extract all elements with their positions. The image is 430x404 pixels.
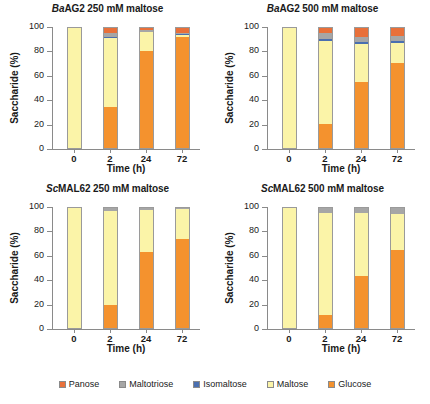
y-axis-label: Saccharide (%) bbox=[9, 232, 20, 304]
x-tick-label: 24 bbox=[346, 153, 376, 164]
bar-segment-maltose[interactable] bbox=[355, 213, 368, 277]
y-tick-label: 40 bbox=[34, 94, 44, 105]
y-tick-mark bbox=[47, 329, 52, 330]
bar-segment-glucose[interactable] bbox=[104, 305, 117, 328]
bar-segment-maltose[interactable] bbox=[140, 210, 153, 252]
stacked-bar[interactable] bbox=[139, 27, 154, 149]
legend-item[interactable]: Isomaltose bbox=[193, 379, 247, 389]
stacked-bar[interactable] bbox=[282, 207, 297, 329]
bar-segment-glucose[interactable] bbox=[391, 250, 404, 328]
bar-segment-glucose[interactable] bbox=[355, 276, 368, 328]
stacked-bar[interactable] bbox=[67, 27, 82, 149]
bar-segment-glucose[interactable] bbox=[391, 63, 404, 148]
plot-canvas bbox=[267, 207, 407, 329]
y-tick-label: 40 bbox=[249, 274, 259, 285]
bar-segment-maltose[interactable] bbox=[283, 28, 296, 148]
plot-area: 020406080100Saccharide (%)Time (h)022472 bbox=[215, 180, 430, 360]
bar-segment-panose[interactable] bbox=[355, 28, 368, 37]
y-tick-label: 100 bbox=[29, 21, 44, 32]
x-tick-label: 0 bbox=[274, 153, 304, 164]
x-tick-label: 2 bbox=[310, 333, 340, 344]
bar-segment-glucose[interactable] bbox=[176, 239, 189, 328]
y-tick-label: 0 bbox=[254, 323, 259, 334]
bar-segment-maltose[interactable] bbox=[140, 32, 153, 51]
y-tick-label: 100 bbox=[244, 201, 259, 212]
plot-area: 020406080100Saccharide (%)Time (h)022472 bbox=[215, 0, 430, 180]
legend-label: Panose bbox=[69, 379, 100, 389]
y-tick-label: 80 bbox=[249, 225, 259, 236]
bar-segment-glucose[interactable] bbox=[140, 51, 153, 148]
y-tick-label: 60 bbox=[34, 250, 44, 261]
plot-canvas bbox=[267, 27, 407, 149]
stacked-bar[interactable] bbox=[318, 207, 333, 329]
bar-segment-maltose[interactable] bbox=[355, 44, 368, 82]
bar-segment-maltose[interactable] bbox=[319, 213, 332, 315]
stacked-bar[interactable] bbox=[175, 207, 190, 329]
y-axis-tick: 0 bbox=[47, 149, 52, 150]
bar-segment-maltose[interactable] bbox=[68, 208, 81, 328]
y-axis-tick: 0 bbox=[262, 329, 267, 330]
legend-label: Maltose bbox=[277, 379, 309, 389]
bar-segment-maltose[interactable] bbox=[68, 28, 81, 148]
legend-swatch-maltose bbox=[267, 381, 274, 388]
stacked-bar[interactable] bbox=[390, 27, 405, 149]
bar-segment-glucose[interactable] bbox=[319, 315, 332, 328]
x-tick-label: 72 bbox=[167, 153, 197, 164]
bar-segment-maltose[interactable] bbox=[319, 41, 332, 124]
x-axis-label: Time (h) bbox=[267, 343, 415, 354]
stacked-bar[interactable] bbox=[175, 27, 190, 149]
stacked-bar[interactable] bbox=[390, 207, 405, 329]
stacked-bar[interactable] bbox=[354, 27, 369, 149]
bar-segment-maltose[interactable] bbox=[391, 43, 404, 63]
bar-segment-glucose[interactable] bbox=[104, 107, 117, 148]
y-tick-label: 60 bbox=[249, 250, 259, 261]
y-tick-label: 0 bbox=[39, 143, 44, 154]
x-tick-label: 72 bbox=[167, 333, 197, 344]
y-tick-label: 60 bbox=[34, 70, 44, 81]
y-tick-label: 40 bbox=[249, 94, 259, 105]
bar-segment-maltose[interactable] bbox=[283, 208, 296, 328]
x-tick-label: 24 bbox=[131, 333, 161, 344]
y-tick-label: 60 bbox=[249, 70, 259, 81]
bar-segment-glucose[interactable] bbox=[140, 252, 153, 328]
legend-item[interactable]: Maltose bbox=[267, 379, 309, 389]
stacked-bar[interactable] bbox=[318, 27, 333, 149]
bar-segment-maltose[interactable] bbox=[176, 209, 189, 239]
x-tick-label: 72 bbox=[382, 153, 412, 164]
bar-segment-maltose[interactable] bbox=[104, 38, 117, 107]
x-axis-label: Time (h) bbox=[267, 163, 415, 174]
stacked-bar[interactable] bbox=[282, 27, 297, 149]
legend-item[interactable]: Panose bbox=[59, 379, 100, 389]
y-tick-label: 100 bbox=[244, 21, 259, 32]
legend-label: Maltotriose bbox=[129, 379, 173, 389]
y-axis-label: Saccharide (%) bbox=[9, 52, 20, 124]
plot-canvas bbox=[52, 207, 192, 329]
panel-ba-ag2-250: BaAG2 250 mM maltose 020406080100Sacchar… bbox=[0, 0, 215, 180]
bar-segment-panose[interactable] bbox=[391, 28, 404, 36]
bar-segment-maltose[interactable] bbox=[391, 214, 404, 250]
y-axis-tick: 0 bbox=[262, 149, 267, 150]
bar-segment-glucose[interactable] bbox=[319, 124, 332, 148]
stacked-bar[interactable] bbox=[354, 207, 369, 329]
y-tick-label: 20 bbox=[34, 119, 44, 130]
panel-ba-ag2-500: BaAG2 500 mM maltose 020406080100Sacchar… bbox=[215, 0, 430, 180]
legend-item[interactable]: Glucose bbox=[328, 379, 371, 389]
bar-segment-maltotriose[interactable] bbox=[319, 33, 332, 40]
legend-label: Isomaltose bbox=[203, 379, 247, 389]
stacked-bar[interactable] bbox=[103, 207, 118, 329]
y-tick-label: 80 bbox=[34, 225, 44, 236]
bar-segment-glucose[interactable] bbox=[355, 82, 368, 148]
plot-area: 020406080100Saccharide (%)Time (h)022472 bbox=[0, 0, 215, 180]
stacked-bar[interactable] bbox=[103, 27, 118, 149]
bar-segment-glucose[interactable] bbox=[176, 37, 189, 148]
y-tick-label: 0 bbox=[254, 143, 259, 154]
legend-item[interactable]: Maltotriose bbox=[119, 379, 173, 389]
x-tick-label: 0 bbox=[59, 333, 89, 344]
x-tick-label: 2 bbox=[95, 153, 125, 164]
legend-swatch-maltotriose bbox=[119, 381, 126, 388]
x-axis-label: Time (h) bbox=[52, 343, 200, 354]
stacked-bar[interactable] bbox=[139, 207, 154, 329]
legend-swatch-panose bbox=[59, 381, 66, 388]
bar-segment-maltose[interactable] bbox=[104, 211, 117, 305]
stacked-bar[interactable] bbox=[67, 207, 82, 329]
